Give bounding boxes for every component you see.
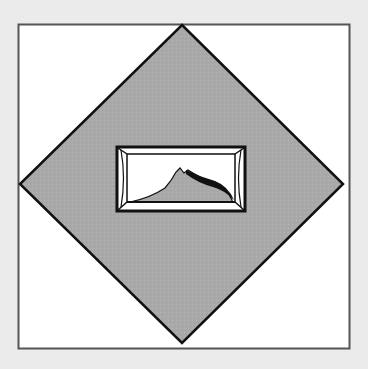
picture-icon [117, 147, 245, 211]
placeholder-graphic [0, 0, 368, 369]
